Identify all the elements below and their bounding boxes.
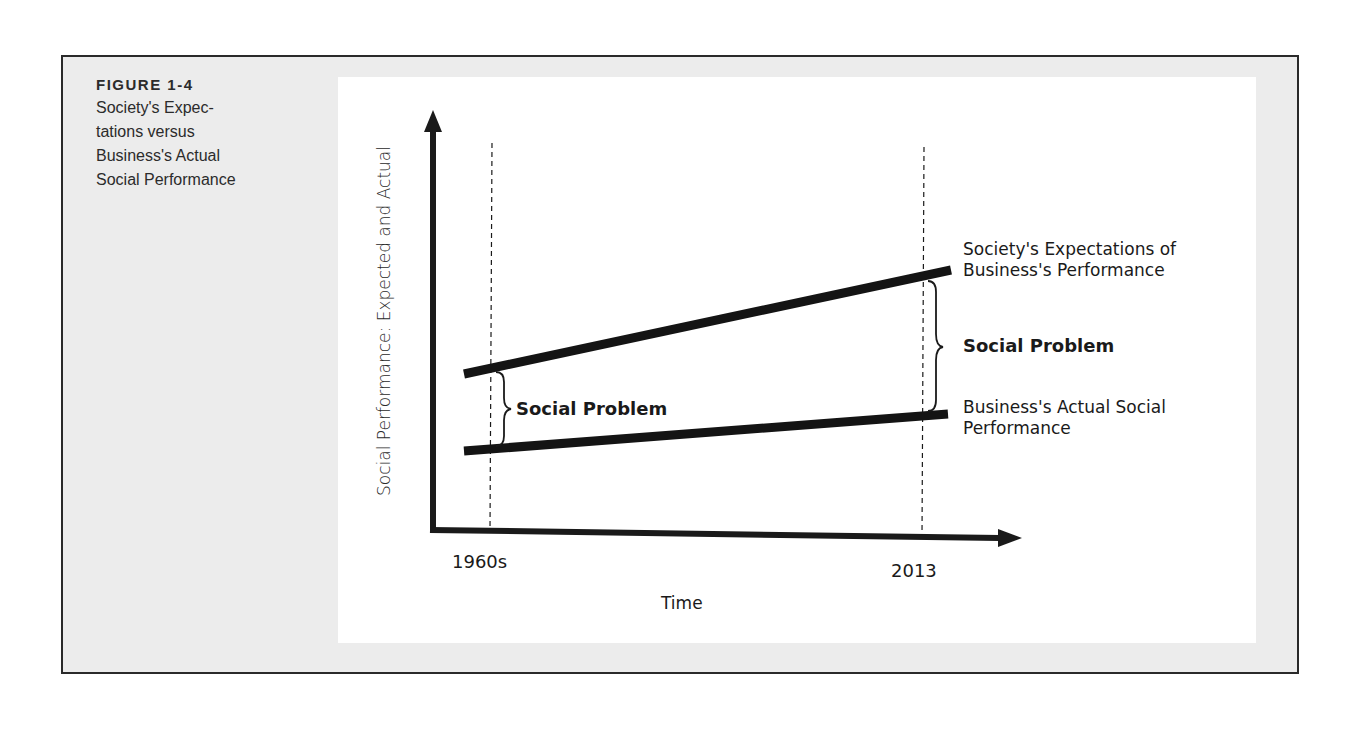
expectations-line: [464, 270, 951, 374]
left-brace-icon: [496, 372, 511, 446]
gap-label-left: Social Problem: [516, 398, 667, 419]
x-axis-label: Time: [661, 593, 703, 613]
actual-performance-line: [464, 414, 948, 451]
reference-line-2013: [922, 147, 924, 536]
diagram-canvas: [0, 0, 1354, 733]
x-axis: [430, 529, 1022, 547]
reference-line-1960s: [490, 143, 492, 530]
actual-series-label: Business's Actual Social Performance: [963, 397, 1166, 439]
y-axis: [424, 110, 442, 530]
y-axis-label: Social Performance: Expected and Actual: [374, 146, 394, 496]
right-brace-icon: [928, 281, 943, 411]
x-tick-1960s: 1960s: [452, 551, 507, 572]
x-tick-2013: 2013: [891, 560, 937, 581]
gap-label-right: Social Problem: [963, 335, 1114, 356]
x-axis-arrow-icon: [998, 529, 1022, 547]
y-axis-arrow-icon: [424, 110, 442, 132]
expectations-series-label: Society's Expectations of Business's Per…: [963, 239, 1176, 281]
